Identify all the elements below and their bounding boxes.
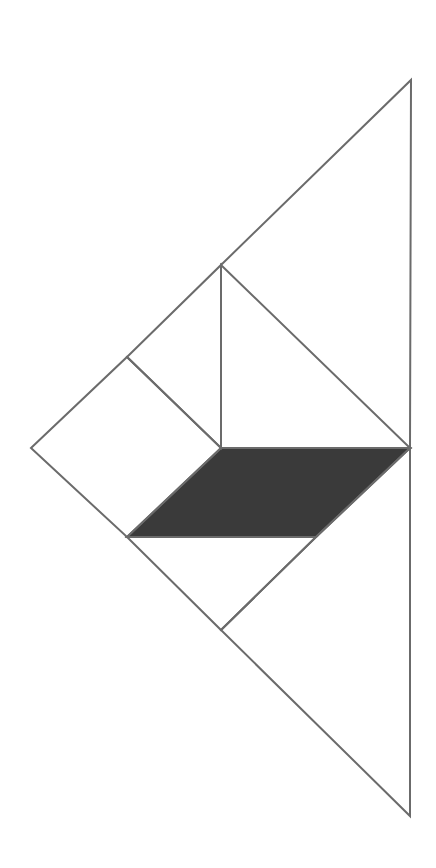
- small-triangle-upper-piece: [127, 265, 221, 448]
- tangram-pieces: [31, 80, 411, 816]
- medium-triangle-inner-piece: [221, 265, 410, 448]
- tangram-diagram: [0, 0, 436, 868]
- parallelogram-piece: [127, 448, 410, 537]
- large-triangle-top-piece: [221, 80, 411, 448]
- small-triangle-lower-piece: [127, 537, 316, 630]
